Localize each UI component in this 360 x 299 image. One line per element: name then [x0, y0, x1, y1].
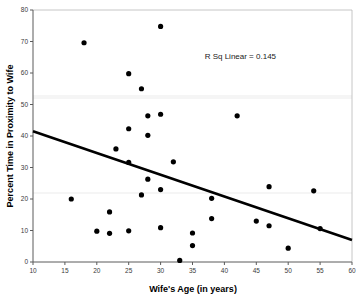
data-point: [158, 225, 163, 230]
data-point: [311, 188, 316, 193]
y-tick-label: 50: [21, 101, 29, 108]
paper-smudges: [33, 95, 352, 194]
x-tick-label: 15: [61, 267, 69, 274]
data-point: [126, 228, 131, 233]
y-tick-label: 10: [21, 227, 29, 234]
regression-line: [33, 131, 352, 240]
data-point: [266, 184, 271, 189]
data-point: [190, 243, 195, 248]
data-point: [145, 133, 150, 138]
x-tick-label: 55: [316, 267, 324, 274]
y-tick-label: 30: [21, 164, 29, 171]
x-tick-label: 40: [221, 267, 229, 274]
data-point: [113, 146, 118, 151]
data-point: [145, 177, 150, 182]
x-axis-label: Wife's Age (in years): [149, 284, 237, 294]
data-point: [266, 223, 271, 228]
data-point: [107, 231, 112, 236]
data-point: [254, 218, 259, 223]
data-point: [177, 258, 182, 263]
data-points: [69, 24, 323, 263]
data-point: [158, 112, 163, 117]
data-point: [235, 113, 240, 118]
data-point: [209, 196, 214, 201]
data-point: [69, 196, 74, 201]
x-tick-label: 20: [93, 267, 101, 274]
data-point: [190, 230, 195, 235]
data-point: [318, 226, 323, 231]
chart-canvas: 01020304050607080 1015202530354045505560…: [0, 0, 360, 299]
x-tick-label: 25: [125, 267, 133, 274]
data-point: [171, 159, 176, 164]
x-tick-label: 50: [285, 267, 293, 274]
y-tick-label: 70: [21, 38, 29, 45]
x-tick-label: 10: [29, 267, 37, 274]
linear-fit-line: [33, 131, 352, 240]
y-tick-label: 80: [21, 6, 29, 13]
data-point: [126, 160, 131, 165]
scatter-plot-figure: 01020304050607080 1015202530354045505560…: [0, 0, 360, 299]
data-point: [126, 126, 131, 131]
y-tick-label: 60: [21, 69, 29, 76]
data-point: [145, 113, 150, 118]
data-point: [139, 192, 144, 197]
x-tick-label: 30: [157, 267, 165, 274]
data-point: [81, 40, 86, 45]
y-tick-label: 20: [21, 195, 29, 202]
x-axis-ticks: 1015202530354045505560: [29, 262, 356, 274]
y-axis-label: Percent Time in Proximity to Wife: [5, 65, 15, 208]
x-tick-label: 45: [253, 267, 261, 274]
data-point: [139, 86, 144, 91]
y-tick-label: 40: [21, 132, 29, 139]
y-axis-ticks: 01020304050607080: [21, 6, 33, 265]
y-tick-label: 0: [24, 258, 28, 265]
data-point: [94, 229, 99, 234]
data-point: [286, 246, 291, 251]
data-point: [158, 24, 163, 29]
x-tick-label: 35: [189, 267, 197, 274]
data-point: [158, 187, 163, 192]
data-point: [107, 209, 112, 214]
r-squared-annotation: R Sq Linear = 0.145: [205, 52, 277, 61]
x-tick-label: 60: [348, 267, 356, 274]
data-point: [126, 71, 131, 76]
data-point: [209, 216, 214, 221]
